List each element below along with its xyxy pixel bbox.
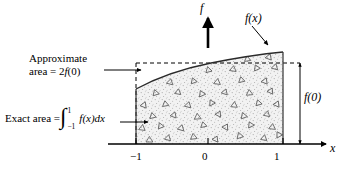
integral-expression: ∫ 1 −1 f(x)dx	[60, 107, 105, 130]
x-axis-label: x	[330, 142, 335, 156]
x-tick-label-zero: 0	[202, 150, 208, 163]
approximate-area-line2-suffix: (0)	[68, 65, 81, 77]
curve-label: f(x)	[245, 12, 262, 26]
integral-sign: ∫	[60, 108, 66, 126]
figure-container: Approximate area = 2f(0) Exact area = ∫ …	[0, 0, 342, 175]
approximate-area-label: Approximate area = 2f(0)	[29, 52, 87, 77]
integral-upper-limit: 1	[67, 107, 75, 115]
x-tick-label-neg1: −1	[130, 150, 142, 163]
f-axis-label: f	[200, 2, 203, 16]
integral-limits: 1 −1	[67, 107, 75, 130]
figure-graphic	[0, 0, 342, 175]
integral-integrand: f(x)dx	[79, 112, 105, 125]
exact-area-prefix: Exact area =	[5, 112, 60, 125]
f0-dimension-label: f(0)	[304, 91, 321, 105]
exact-area-label: Exact area = ∫ 1 −1 f(x)dx	[5, 107, 105, 130]
x-tick-label-one: 1	[274, 150, 280, 163]
approximate-area-line1: Approximate	[29, 52, 87, 64]
exact-area-region	[136, 52, 283, 144]
approximate-area-line2-prefix: area = 2	[29, 65, 65, 77]
integral-lower-limit: −1	[67, 123, 75, 131]
leader-curve-fx	[252, 26, 268, 45]
